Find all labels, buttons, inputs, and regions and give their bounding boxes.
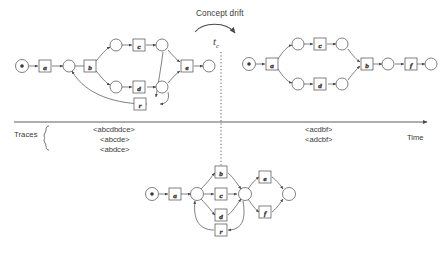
net-after-drift: a c d b f xyxy=(243,38,438,90)
concept-drift-arrow xyxy=(195,24,235,33)
transition-d-before-label: d xyxy=(137,85,141,93)
net-merged: a b c d r e f xyxy=(146,166,296,236)
transition-d-after-label: d xyxy=(318,82,322,90)
net-before-arcs xyxy=(29,45,203,104)
concept-drift-figure: Concept drift tc Traces Time <abcdbdce> … xyxy=(0,0,442,263)
transition-d-merged-label: d xyxy=(219,213,223,221)
transition-e-merged-label: e xyxy=(263,175,266,183)
net-before-drift: a b c d e r xyxy=(16,39,216,110)
transition-a-after-label: a xyxy=(270,62,274,70)
transition-r-merged-label: r xyxy=(220,228,223,236)
transition-b-merged-label: b xyxy=(219,170,223,178)
transition-a-before-label: a xyxy=(43,64,47,72)
token-start-before xyxy=(20,64,24,68)
transition-b-after-label: b xyxy=(365,62,369,70)
transition-r-before-label: r xyxy=(139,102,142,110)
traces-brace xyxy=(44,126,49,150)
token-start-after xyxy=(247,62,251,66)
token-start-merged xyxy=(150,192,154,196)
figure-vector-layer: a b c d e r xyxy=(0,0,442,263)
transition-e-before-label: e xyxy=(185,64,188,72)
net-merged-transitions: a b c d r e f xyxy=(169,166,271,236)
transition-b-before-label: b xyxy=(88,64,92,72)
transition-a-merged-label: a xyxy=(173,192,177,200)
